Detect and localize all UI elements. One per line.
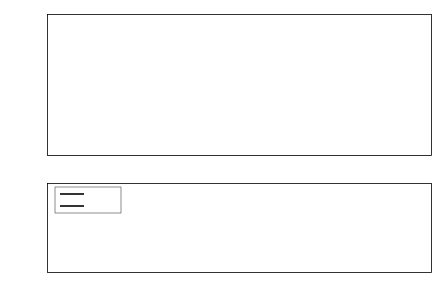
chart-svg xyxy=(0,0,444,301)
legend xyxy=(55,187,121,213)
figure-container xyxy=(0,0,444,301)
top-panel-frame xyxy=(48,15,432,156)
top-panel xyxy=(48,15,432,156)
bottom-panel xyxy=(48,184,432,273)
legend-box xyxy=(55,187,121,213)
